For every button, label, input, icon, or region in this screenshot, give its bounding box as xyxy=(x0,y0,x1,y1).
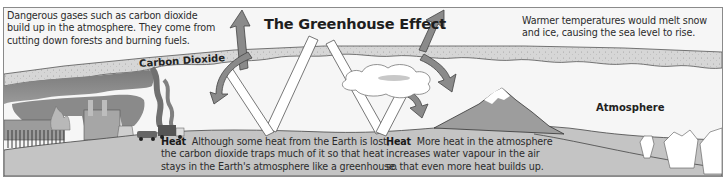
chimney xyxy=(102,100,107,116)
caption-heading: Heat xyxy=(161,136,186,147)
label-atmosphere: Atmosphere xyxy=(596,102,665,113)
caption-line: increases water vapour in the air xyxy=(386,148,552,160)
caption-heading: Heat xyxy=(386,136,411,147)
caption-line: Although some heat from the Earth is los… xyxy=(192,136,390,147)
caption-line: so that even more heat builds up. xyxy=(386,161,552,173)
caption-line: and ice, causing the sea level to rise. xyxy=(522,27,707,39)
caption-line: build up in the atmosphere. They come fr… xyxy=(7,22,215,34)
water-vapour xyxy=(378,75,410,81)
caption-line: More heat in the atmosphere xyxy=(417,136,553,147)
caption-heat-trapped: Heat Although some heat from the Earth i… xyxy=(161,136,398,173)
caption-line: the carbon dioxide traps much of it so t… xyxy=(161,148,398,160)
greenhouse-diagram: The Greenhouse Effect Dangerous gases su… xyxy=(3,7,723,177)
chimney xyxy=(88,100,93,116)
caption-line: Warmer temperatures would melt snow xyxy=(522,15,707,27)
caption-heat-vapour: Heat More heat in the atmosphere increas… xyxy=(386,136,552,173)
caption-line: Dangerous gases such as carbon dioxide xyxy=(7,10,215,22)
caption-line: stays in the Earth's atmosphere like a g… xyxy=(161,161,398,173)
caption-top-right: Warmer temperatures would melt snow and … xyxy=(522,15,707,40)
diagram-title: The Greenhouse Effect xyxy=(264,16,446,32)
caption-top-left: Dangerous gases such as carbon dioxide b… xyxy=(7,10,215,47)
smoke-plume xyxy=(152,68,161,126)
smoke-plume xyxy=(164,80,172,126)
caption-line: cutting down forests and burning fuels. xyxy=(7,35,215,47)
